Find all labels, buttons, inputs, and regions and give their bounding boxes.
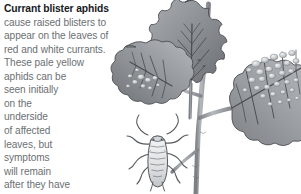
caption-line: leaves, but xyxy=(4,138,130,152)
caption-line: after they have xyxy=(4,178,130,192)
caption-line: aphids can be xyxy=(4,70,130,84)
caption-line: These pale yellow xyxy=(4,56,130,70)
caption-body: cause raised blisters to appear on the l… xyxy=(4,16,130,194)
page-title: Currant blister aphids xyxy=(4,2,130,16)
caption-line: cause raised blisters to xyxy=(4,16,130,30)
caption-line: symptoms xyxy=(4,151,130,165)
caption-line: appear on the leaves of xyxy=(4,29,130,43)
caption-block: Currant blister aphids cause raised blis… xyxy=(4,2,130,194)
caption-line: red and white currants. xyxy=(4,43,130,57)
caption-line: of affected xyxy=(4,124,130,138)
caption-line: will remain xyxy=(4,165,130,179)
caption-line: seen initially xyxy=(4,83,130,97)
caption-line: moved on. xyxy=(4,192,130,194)
caption-line: on the xyxy=(4,97,130,111)
caption-line: underside xyxy=(4,110,130,124)
